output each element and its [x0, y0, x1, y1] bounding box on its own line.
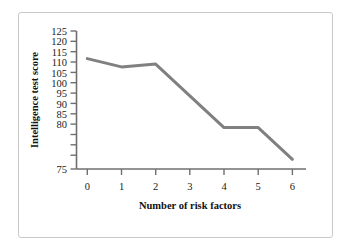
y-tick-label: 90	[57, 99, 68, 110]
x-tick-label: 0	[85, 181, 90, 192]
x-tick-label: 3	[187, 181, 192, 192]
figure-container: 125 120 115 110 105 100 95 90 85 80 75 0…	[0, 0, 351, 250]
x-tick-label: 2	[153, 181, 158, 192]
y-tick-label: 75	[57, 164, 68, 175]
x-tick-label: 4	[221, 181, 227, 192]
x-tick-label: 6	[290, 181, 295, 192]
data-series-line	[87, 59, 292, 160]
line-chart: 125 120 115 110 105 100 95 90 85 80 75 0…	[0, 0, 351, 250]
y-tick-label: 120	[51, 36, 67, 47]
y-axis-tick-labels: 125 120 115 110 105 100 95 90 85 80 75	[51, 26, 67, 175]
y-tick-label: 110	[52, 57, 67, 68]
x-axis-ticks	[87, 169, 292, 175]
x-axis-tick-labels: 0 1 2 3 4 5 6	[85, 181, 295, 192]
y-tick-label: 125	[51, 26, 67, 37]
x-tick-label: 1	[119, 181, 124, 192]
y-axis-ticks	[71, 31, 77, 169]
x-tick-label: 5	[256, 181, 261, 192]
y-axis-title: Intelligence test score	[29, 52, 40, 148]
x-axis-title: Number of risk factors	[139, 200, 241, 211]
y-tick-label: 100	[51, 78, 67, 89]
y-tick-label: 80	[57, 119, 68, 130]
